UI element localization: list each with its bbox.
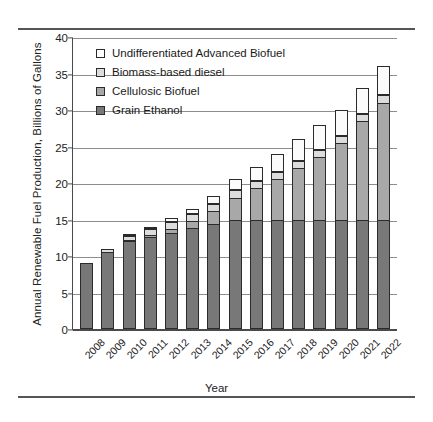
chart-legend: Undifferentiated Advanced BiofuelBiomass… [96,47,285,116]
bar-segment [313,157,326,219]
x-tick-label: 2010 [124,336,149,361]
x-tick-label: 2017 [273,336,298,361]
bar-segment [377,95,390,102]
y-tick-label-30: 30 [55,105,68,117]
bar-segment [335,136,348,143]
bar-segment [271,179,284,219]
x-tick-label: 2016 [251,336,276,361]
bar-segment [313,150,326,157]
bar-segment [377,103,390,220]
stacked-bar[interactable] [80,263,93,329]
bar-segment [313,220,326,330]
bar-segment [250,181,263,188]
stacked-bar[interactable] [356,88,369,329]
stacked-bar[interactable] [377,66,390,329]
bar-segment [335,220,348,330]
bar-segment [229,179,242,190]
y-axis-title: Annual Renewable Fuel Production, Billio… [31,34,43,334]
x-tick-label: 2013 [188,336,213,361]
bar-column[interactable]: 2018 [288,38,309,329]
stacked-bar[interactable] [144,227,157,329]
bar-column[interactable]: 2020 [330,38,351,329]
bar-column[interactable]: 2008 [76,38,97,329]
legend-swatch-icon [96,49,105,58]
bar-segment [313,125,326,151]
stacked-bar[interactable] [123,234,136,329]
bar-segment [271,154,284,172]
y-tick-mark-0 [68,329,73,330]
bar-segment [144,237,157,329]
x-tick-label: 2011 [146,336,170,360]
bar-segment [377,220,390,330]
bar-segment [250,167,263,182]
bar-segment [186,221,199,228]
bar-segment [207,224,220,329]
x-tick-label: 2022 [379,336,404,361]
bar-segment [165,233,178,329]
legend-item[interactable]: Biomass-based diesel [96,66,285,78]
bar-segment [207,204,220,211]
y-tick-label-25: 25 [55,142,68,154]
bar-segment [229,190,242,197]
y-tick-label-40: 40 [55,32,68,44]
stacked-bar[interactable] [229,179,242,329]
bar-segment [186,228,199,329]
bar-segment [271,172,284,179]
stacked-bar[interactable] [313,125,326,329]
bar-segment [292,168,305,219]
y-tick-label-5: 5 [62,288,68,300]
bar-segment [101,252,114,329]
legend-label: Undifferentiated Advanced Biofuel [112,47,285,59]
bar-segment [356,121,369,220]
x-tick-label: 2014 [209,336,234,361]
bar-segment [292,139,305,161]
bar-segment [250,188,263,219]
stacked-bar[interactable] [165,218,178,329]
bar-segment [229,198,242,220]
legend-swatch-icon [96,106,105,115]
stacked-bar[interactable] [250,167,263,329]
x-tick-label: 2020 [336,336,361,361]
legend-swatch-icon [96,68,105,77]
bar-segment [377,66,390,95]
x-tick-label: 2018 [294,336,319,361]
legend-item[interactable]: Grain Ethanol [96,104,285,116]
figure-bottom-rule [18,396,415,398]
bar-column[interactable]: 2019 [309,38,330,329]
y-tick-label-35: 35 [55,69,68,81]
bar-segment [356,114,369,121]
bar-segment [356,88,369,114]
stacked-bar[interactable] [186,209,199,329]
stacked-bar[interactable] [335,110,348,329]
y-tick-label-20: 20 [55,178,68,190]
figure-top-rule [18,28,415,30]
bar-segment [80,263,93,329]
legend-label: Grain Ethanol [112,104,182,116]
x-tick-label: 2021 [357,336,382,361]
x-tick-label: 2012 [167,336,192,361]
legend-label: Biomass-based diesel [112,66,225,78]
bar-column[interactable]: 2021 [352,38,373,329]
bar-segment [335,143,348,220]
y-tick-label-10: 10 [55,251,68,263]
bar-segment [229,220,242,330]
bar-segment [250,220,263,330]
stacked-bar[interactable] [292,139,305,329]
x-tick-label: 2015 [230,336,255,361]
legend-item[interactable]: Cellulosic Biofuel [96,85,285,97]
stacked-bar[interactable] [207,196,220,329]
bar-column[interactable]: 2022 [373,38,394,329]
x-tick-label: 2019 [315,336,340,361]
legend-item[interactable]: Undifferentiated Advanced Biofuel [96,47,285,59]
x-tick-label: 2009 [103,336,128,361]
legend-label: Cellulosic Biofuel [112,85,200,97]
y-tick-label-15: 15 [55,215,68,227]
bar-segment [356,220,369,330]
x-axis-title: Year [0,382,433,394]
stacked-bar[interactable] [271,154,284,329]
stacked-bar[interactable] [101,249,114,329]
bar-segment [207,211,220,224]
bar-segment [335,110,348,136]
bar-segment [292,161,305,168]
gridline-0 [73,330,397,331]
